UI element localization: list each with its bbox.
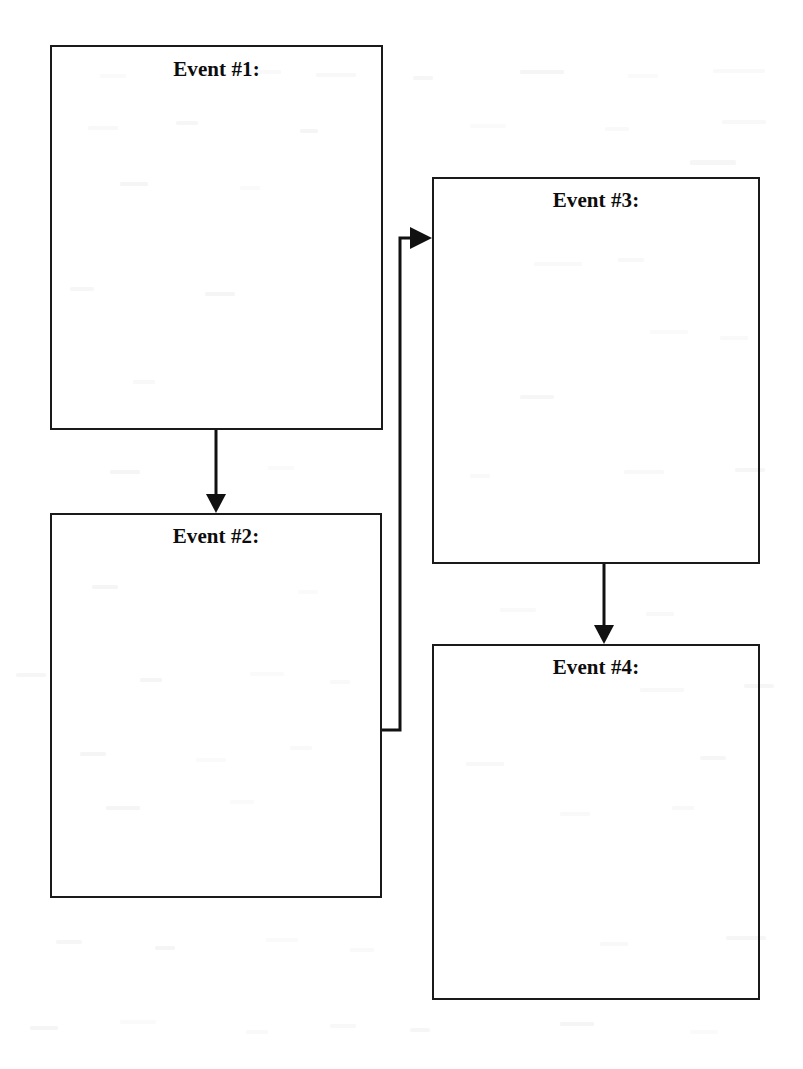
scan-speckle bbox=[520, 70, 564, 74]
scan-speckle bbox=[713, 69, 765, 73]
scan-speckle bbox=[690, 1030, 718, 1034]
scan-speckle bbox=[722, 120, 766, 124]
event-box-1[interactable]: Event #1: bbox=[50, 45, 383, 430]
event-box-4-label: Event #4: bbox=[434, 657, 758, 678]
sequence-chart-page: Event #1: Event #2: Event #3: Event #4: bbox=[0, 0, 803, 1069]
scan-speckle bbox=[120, 1020, 156, 1024]
scan-speckle bbox=[266, 938, 298, 942]
connector-2-to-3-line bbox=[382, 238, 413, 730]
scan-speckle bbox=[30, 1026, 58, 1030]
scan-speckle bbox=[560, 1022, 594, 1026]
scan-speckle bbox=[410, 1028, 430, 1032]
scan-speckle bbox=[110, 470, 140, 474]
scan-speckle bbox=[413, 76, 433, 80]
scan-speckle bbox=[470, 124, 506, 128]
scan-speckle bbox=[56, 940, 82, 944]
scan-speckle bbox=[350, 948, 374, 952]
scan-speckle bbox=[628, 74, 658, 78]
scan-speckle bbox=[16, 673, 46, 677]
scan-speckle bbox=[155, 946, 175, 950]
connector-3-to-4-arrowhead-icon bbox=[594, 625, 614, 644]
connector-2-to-3-arrowhead-icon bbox=[410, 227, 432, 249]
event-box-4[interactable]: Event #4: bbox=[432, 644, 760, 1000]
event-box-2[interactable]: Event #2: bbox=[50, 513, 382, 898]
scan-speckle bbox=[268, 466, 294, 470]
event-box-1-label: Event #1: bbox=[52, 59, 381, 80]
scan-speckle bbox=[646, 612, 674, 616]
scan-speckle bbox=[690, 160, 736, 165]
scan-speckle bbox=[605, 127, 629, 131]
event-box-2-label: Event #2: bbox=[52, 526, 380, 547]
scan-speckle bbox=[500, 608, 536, 612]
scan-speckle bbox=[246, 1030, 268, 1034]
scan-speckle bbox=[330, 1024, 356, 1028]
event-box-3-label: Event #3: bbox=[434, 190, 758, 211]
event-box-3[interactable]: Event #3: bbox=[432, 177, 760, 564]
connector-1-to-2-arrowhead-icon bbox=[206, 494, 226, 513]
